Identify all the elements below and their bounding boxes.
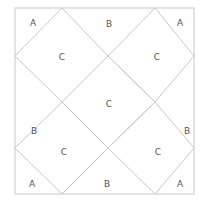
diamond-group bbox=[15, 8, 194, 194]
label-a-bottom-left: A bbox=[29, 179, 36, 189]
label-group: ABACCBCBCCABA bbox=[29, 18, 190, 189]
label-c-bottom-left: C bbox=[61, 147, 67, 157]
label-c-bottom-right: C bbox=[155, 147, 161, 157]
label-c-top-right: C bbox=[154, 52, 160, 62]
label-b-left: B bbox=[31, 126, 37, 136]
label-c-top-left: C bbox=[59, 52, 65, 62]
outer-square bbox=[15, 8, 194, 194]
label-a-bottom-right: A bbox=[177, 179, 184, 189]
label-b-right: B bbox=[184, 126, 190, 136]
label-a-top-left: A bbox=[30, 18, 37, 28]
label-a-top-right: A bbox=[177, 18, 184, 28]
label-b-bottom: B bbox=[104, 179, 110, 189]
tiling-diagram: ABACCBCBCCABA bbox=[0, 0, 208, 211]
label-c-center: C bbox=[106, 99, 112, 109]
label-b-top: B bbox=[106, 19, 112, 29]
